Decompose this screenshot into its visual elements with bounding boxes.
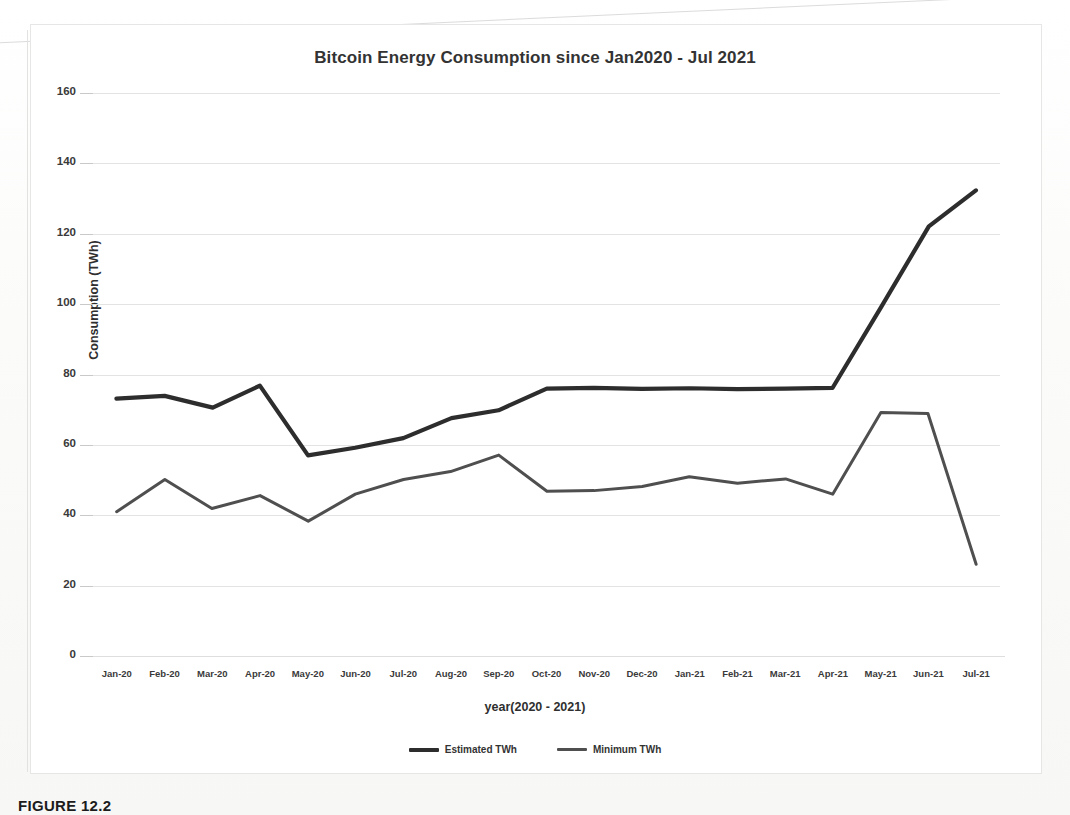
plot-series-layer: [0, 0, 1070, 815]
legend-label: Estimated TWh: [445, 744, 517, 755]
legend-line-swatch-icon: [557, 748, 587, 751]
figure-caption: FIGURE 12.2: [18, 797, 111, 814]
legend-item-minimum[interactable]: Minimum TWh: [557, 744, 661, 755]
legend-item-estimated[interactable]: Estimated TWh: [409, 744, 517, 755]
chart-legend: Estimated TWhMinimum TWh: [0, 744, 1070, 755]
legend-label: Minimum TWh: [593, 744, 661, 755]
series-line-minimum: [117, 413, 976, 565]
series-line-estimated: [116, 190, 975, 455]
legend-line-swatch-icon: [409, 748, 439, 752]
